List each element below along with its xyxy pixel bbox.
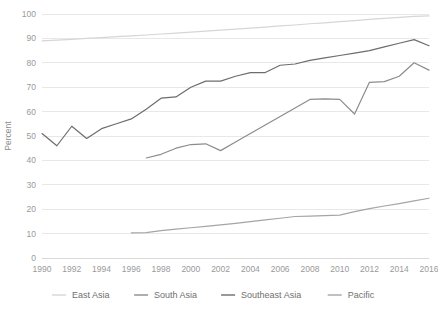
x-tick-label: 2006 (271, 264, 290, 274)
line-chart: 0102030405060708090100 19901992199419961… (0, 0, 438, 309)
series-lines-group (42, 16, 429, 233)
x-tick-label: 1994 (92, 264, 111, 274)
x-tick-label: 2016 (420, 264, 438, 274)
x-tick-label: 2014 (390, 264, 409, 274)
x-tick-label: 2012 (360, 264, 379, 274)
chart-canvas: 0102030405060708090100 19901992199419961… (0, 0, 438, 309)
x-tick-label: 2004 (241, 264, 260, 274)
series-line-east-asia (42, 16, 429, 41)
legend-label-pacific[interactable]: Pacific (348, 290, 375, 300)
x-tick-label: 2000 (181, 264, 200, 274)
series-line-southeast-asia (42, 40, 429, 146)
y-axis-tick-labels: 0102030405060708090100 (22, 9, 36, 263)
y-tick-label: 50 (27, 131, 37, 141)
y-tick-label: 90 (27, 33, 37, 43)
y-tick-label: 20 (27, 204, 37, 214)
chart-legend: East AsiaSouth AsiaSoutheast AsiaPacific (52, 290, 375, 300)
series-line-pacific (131, 198, 429, 233)
y-axis-title: Percent (3, 121, 13, 151)
y-tick-label: 100 (22, 9, 36, 19)
x-tick-label: 1996 (122, 264, 141, 274)
y-tick-label: 70 (27, 82, 37, 92)
legend-label-southeast-asia[interactable]: Southeast Asia (241, 290, 301, 300)
x-tick-label: 2002 (211, 264, 230, 274)
x-tick-label: 1992 (62, 264, 81, 274)
y-tick-label: 30 (27, 180, 37, 190)
x-tick-label: 2008 (300, 264, 319, 274)
series-line-south-asia (146, 63, 429, 158)
y-tick-label: 10 (27, 229, 37, 239)
x-tick-label: 1998 (152, 264, 171, 274)
y-tick-label: 80 (27, 58, 37, 68)
x-tick-label: 2010 (330, 264, 349, 274)
y-tick-label: 60 (27, 107, 37, 117)
y-tick-label: 0 (31, 253, 36, 263)
legend-label-south-asia[interactable]: South Asia (154, 290, 197, 300)
x-tick-label: 1990 (33, 264, 52, 274)
x-axis-tick-labels: 1990199219941996199820002002200420062008… (33, 264, 438, 274)
legend-label-east-asia[interactable]: East Asia (72, 290, 110, 300)
y-tick-label: 40 (27, 155, 37, 165)
